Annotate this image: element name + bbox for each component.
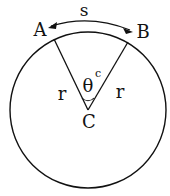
label-theta-unit: c bbox=[95, 67, 101, 80]
arrowhead-left bbox=[48, 22, 57, 29]
label-s: s bbox=[80, 0, 89, 20]
label-theta: θ bbox=[83, 75, 94, 96]
circle-sector-diagram: s A B θ c r r C bbox=[0, 0, 170, 196]
label-r-right: r bbox=[116, 81, 125, 102]
label-r-left: r bbox=[58, 83, 67, 104]
label-c: C bbox=[82, 111, 96, 132]
label-a: A bbox=[33, 19, 48, 40]
label-b: B bbox=[136, 21, 149, 42]
arc-length-arrow bbox=[51, 21, 130, 30]
